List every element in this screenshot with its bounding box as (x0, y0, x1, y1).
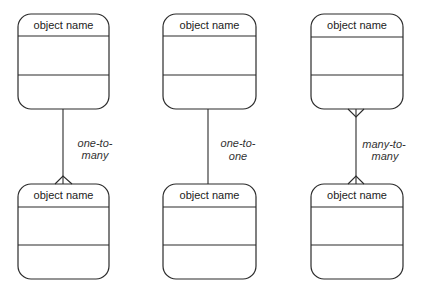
entity-bottom-right[interactable]: object name (311, 184, 403, 279)
relationship-many-to-many[interactable]: many-to- many (348, 109, 406, 184)
relationship-label-line1: one-to- (78, 137, 113, 149)
relationship-label-line2: one (229, 150, 247, 162)
entity-title: object name (34, 19, 94, 31)
relationship-label-line1: many-to- (362, 138, 406, 150)
relationship-one-to-one[interactable]: one-to- one (208, 109, 256, 184)
relationship-label-line2: many (82, 149, 110, 161)
entity-title: object name (327, 19, 387, 31)
entity-title: object name (180, 19, 240, 31)
entity-title: object name (180, 189, 240, 201)
relationship-label-line2: many (372, 150, 400, 162)
entity-title: object name (34, 189, 94, 201)
relationship-one-to-many[interactable]: one-to- many (55, 109, 113, 184)
entity-bottom-middle[interactable]: object name (163, 184, 256, 279)
relationship-label-line1: one-to- (221, 137, 256, 149)
entity-top-middle[interactable]: object name (163, 14, 256, 109)
entity-title: object name (327, 189, 387, 201)
entity-bottom-left[interactable]: object name (18, 184, 109, 279)
entity-top-left[interactable]: object name (18, 14, 109, 109)
er-diagram: object name object name object name obje… (0, 0, 424, 292)
entity-top-right[interactable]: object name (311, 14, 403, 109)
